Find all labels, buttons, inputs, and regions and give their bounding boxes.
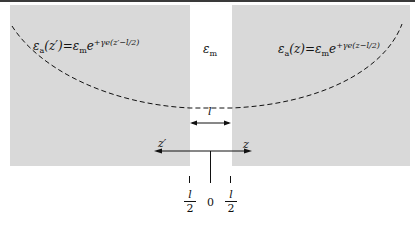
arrowhead-left-icon xyxy=(190,121,197,126)
formula-text: =ε xyxy=(305,42,322,56)
gap-width-label: l xyxy=(208,105,212,118)
tick-left-label: l 2 xyxy=(184,188,196,215)
formula-sub: m xyxy=(321,49,329,58)
fraction-denominator: 2 xyxy=(184,202,196,215)
fraction-denominator: 2 xyxy=(225,202,237,215)
formula-text: e xyxy=(87,39,94,53)
left-formula: εa(z′)=εme+γe(z′−l/2) xyxy=(33,39,139,55)
formula-text: (z) xyxy=(289,42,305,56)
formula-exponent: +γe(z−l/2) xyxy=(336,41,380,50)
fraction-numerator: l xyxy=(184,188,196,202)
fraction-numerator: l xyxy=(225,188,237,202)
formula-text: =ε xyxy=(63,39,80,53)
formula-sub: m xyxy=(79,46,87,55)
tick-right-label: l 2 xyxy=(225,188,237,215)
arrowhead-right-icon xyxy=(224,121,231,126)
z-axis-label: z xyxy=(243,138,249,151)
origin-label: 0 xyxy=(207,196,214,209)
formula-sub: m xyxy=(209,49,217,58)
right-formula: εa(z)=εme+γe(z−l/2) xyxy=(278,42,380,58)
formula-exponent: +γe(z′−l/2) xyxy=(94,38,140,47)
permittivity-curve xyxy=(12,24,402,108)
center-permittivity-label: εm xyxy=(203,42,217,58)
formula-text: (z′) xyxy=(44,39,62,53)
z-prime-axis-label: z′ xyxy=(158,137,166,150)
